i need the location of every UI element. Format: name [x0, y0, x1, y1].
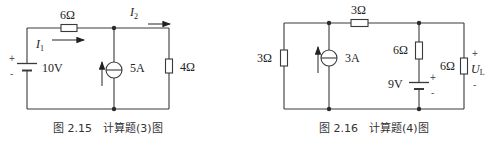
current-source-3a [321, 50, 337, 66]
resistor-4ohm [166, 59, 173, 73]
resistor-load-6ohm [461, 58, 468, 74]
circuit-diagrams: 6Ω + - 10V 5A 4Ω I1 I2 图 2.15 计算题(3)图 [0, 0, 491, 146]
load-plus-sign: + [472, 48, 478, 59]
voltage-source-9v [409, 83, 429, 90]
node-dot [112, 26, 116, 30]
plus-sign: + [9, 53, 15, 64]
plus-sign: + [430, 72, 436, 83]
resistor-mid-6ohm-label: 6Ω [393, 43, 408, 57]
load-voltage-label: UL [471, 62, 485, 77]
voltage-source-10v-label: 10V [42, 61, 63, 75]
figure-caption-2-15: 图 2.15 计算题(3)图 [53, 121, 163, 135]
load-minus-sign: - [473, 79, 476, 90]
resistor-4ohm-label: 4Ω [180, 60, 195, 74]
current-source-5a [106, 62, 122, 78]
resistor-6ohm [61, 25, 77, 32]
current-source-3a-label: 3A [345, 51, 360, 65]
current-source-5a-label: 5A [130, 61, 145, 75]
resistor-left-3ohm-label: 3Ω [257, 51, 272, 65]
voltage-source-9v-label: 9V [388, 77, 403, 91]
resistor-top-3ohm-label: 3Ω [351, 3, 366, 17]
resistor-load-6ohm-label: 6Ω [440, 59, 455, 73]
current-i1-label: I1 [35, 37, 44, 53]
figure-2-15: 6Ω + - 10V 5A 4Ω I1 I2 图 2.15 计算题(3)图 [9, 5, 195, 135]
minus-sign: - [10, 68, 13, 79]
voltage-source-10v [17, 64, 37, 71]
figure-2-16: 3Ω 3A 3Ω 6Ω 9V + - 6Ω + UL - [257, 3, 485, 135]
resistor-left-3ohm [281, 50, 288, 66]
current-i2-label: I2 [129, 5, 138, 21]
node-dot [327, 21, 331, 25]
node-dot [112, 107, 116, 111]
resistor-6ohm-label: 6Ω [60, 8, 75, 22]
figure-caption-2-16: 图 2.16 计算题(4)图 [319, 121, 429, 135]
wires-fig-2-16 [284, 23, 464, 109]
node-dot [327, 107, 331, 111]
node-dot [417, 21, 421, 25]
minus-sign: - [431, 87, 434, 98]
resistor-top-3ohm [351, 20, 368, 27]
node-dot [417, 107, 421, 111]
resistor-mid-6ohm [416, 42, 423, 59]
